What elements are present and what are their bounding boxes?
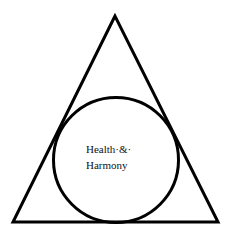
triangle-shape: [13, 16, 218, 222]
label-line-2: Harmony: [86, 157, 166, 173]
diagram-canvas: [0, 0, 232, 236]
circle-label: Health·&· Harmony: [86, 141, 166, 173]
label-line-1: Health·&·: [86, 141, 166, 157]
